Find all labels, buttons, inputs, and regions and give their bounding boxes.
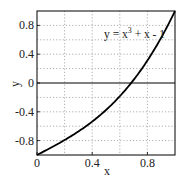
y-tick-label: 0.8 (19, 18, 34, 32)
y-tick-label: 0 (28, 76, 34, 90)
y-tick-label: -0.8 (15, 134, 34, 148)
equation-annotation: y = x3 + x - 1 (104, 26, 165, 41)
y-tick-label: -0.4 (15, 105, 34, 119)
x-tick-label: 0.8 (140, 156, 155, 170)
x-axis-label: x (104, 164, 110, 178)
x-tick-label: 0 (34, 156, 40, 170)
annotation-suffix: + x - 1 (132, 28, 166, 40)
y-axis-label: y (8, 81, 22, 87)
function-plot: 00.40.8 -0.8-0.400.40.8 x y y = x3 + x -… (0, 0, 182, 185)
annotation-prefix: y = x (104, 28, 128, 41)
x-tick-label: 0.4 (85, 156, 100, 170)
y-tick-label: 0.4 (19, 47, 34, 61)
